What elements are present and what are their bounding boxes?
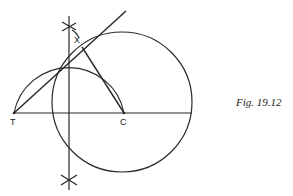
label-x: X: [74, 35, 80, 45]
large-circle: [52, 32, 192, 172]
label-t: T: [10, 117, 16, 127]
point-t: [13, 112, 16, 115]
radius-xc: [82, 47, 124, 113]
point-c: [123, 112, 126, 115]
label-c: C: [120, 117, 127, 127]
figure-caption: Fig. 19.12: [236, 96, 282, 108]
